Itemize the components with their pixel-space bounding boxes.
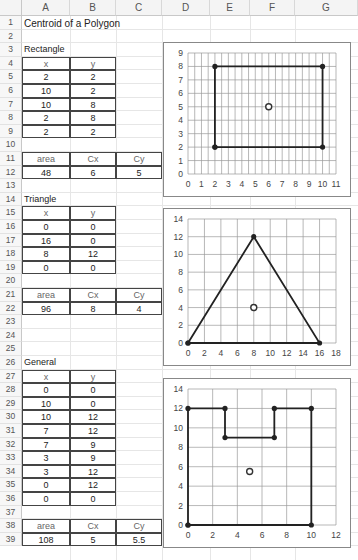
row-header-14[interactable]: 14	[0, 193, 22, 207]
rectangle-section-label[interactable]: Rectangle	[22, 43, 70, 57]
row-header-6[interactable]: 6	[0, 84, 22, 98]
column-header-a[interactable]: A	[22, 0, 70, 16]
rectangle-cy-header[interactable]: Cy	[116, 152, 162, 166]
general-section-label[interactable]: General	[22, 356, 70, 370]
general-y-value[interactable]: 12	[70, 410, 116, 424]
column-header-e[interactable]: E	[210, 0, 250, 16]
row-header-21[interactable]: 21	[0, 288, 22, 302]
row-header-10[interactable]: 10	[0, 138, 22, 152]
row-header-19[interactable]: 19	[0, 261, 22, 275]
rectangle-header-y[interactable]: y	[70, 57, 116, 71]
row-header-30[interactable]: 30	[0, 410, 22, 424]
general-x-value[interactable]: 0	[22, 383, 70, 397]
triangle-cy-header[interactable]: Cy	[116, 288, 162, 302]
row-header-17[interactable]: 17	[0, 234, 22, 248]
triangle-header-y[interactable]: y	[70, 206, 116, 220]
rectangle-area-value[interactable]: 48	[22, 166, 70, 180]
row-header-39[interactable]: 39	[0, 533, 22, 547]
row-header-1[interactable]: 1	[0, 16, 22, 30]
rectangle-y-value[interactable]: 2	[70, 125, 116, 139]
triangle-area-header[interactable]: area	[22, 288, 70, 302]
rectangle-y-value[interactable]: 2	[70, 84, 116, 98]
row-header-24[interactable]: 24	[0, 329, 22, 343]
general-y-value[interactable]: 9	[70, 451, 116, 465]
row-header-33[interactable]: 33	[0, 451, 22, 465]
sheet-title[interactable]: Centroid of a Polygon	[24, 17, 120, 31]
general-cx-value[interactable]: 5	[70, 533, 116, 547]
general-x-value[interactable]: 3	[22, 465, 70, 479]
rectangle-x-value[interactable]: 10	[22, 84, 70, 98]
triangle-cx-header[interactable]: Cx	[70, 288, 116, 302]
general-x-value[interactable]: 10	[22, 410, 70, 424]
row-header-4[interactable]: 4	[0, 57, 22, 71]
row-header-26[interactable]: 26	[0, 356, 22, 370]
triangle-y-value[interactable]: 0	[70, 220, 116, 234]
rectangle-x-value[interactable]: 2	[22, 111, 70, 125]
rectangle-area-header[interactable]: area	[22, 152, 70, 166]
row-header-34[interactable]: 34	[0, 465, 22, 479]
row-header-9[interactable]: 9	[0, 125, 22, 139]
general-y-value[interactable]: 12	[70, 465, 116, 479]
triangle-cy-value[interactable]: 4	[116, 302, 162, 316]
row-header-13[interactable]: 13	[0, 179, 22, 193]
triangle-y-value[interactable]: 0	[70, 234, 116, 248]
row-header-29[interactable]: 29	[0, 397, 22, 411]
column-header-b[interactable]: B	[70, 0, 116, 16]
select-all-corner[interactable]	[0, 0, 22, 16]
row-header-8[interactable]: 8	[0, 111, 22, 125]
row-header-23[interactable]: 23	[0, 315, 22, 329]
column-header-d[interactable]: D	[162, 0, 210, 16]
row-header-3[interactable]: 3	[0, 43, 22, 57]
triangle-y-value[interactable]: 0	[70, 261, 116, 275]
general-area-value[interactable]: 108	[22, 533, 70, 547]
triangle-area-value[interactable]: 96	[22, 302, 70, 316]
general-x-value[interactable]: 0	[22, 478, 70, 492]
column-header-f[interactable]: F	[250, 0, 295, 16]
rectangle-cx-header[interactable]: Cx	[70, 152, 116, 166]
rectangle-cy-value[interactable]: 5	[116, 166, 162, 180]
general-area-header[interactable]: area	[22, 519, 70, 533]
general-cy-value[interactable]: 5.5	[116, 533, 162, 547]
rectangle-y-value[interactable]: 2	[70, 70, 116, 84]
triangle-cx-value[interactable]: 8	[70, 302, 116, 316]
row-header-12[interactable]: 12	[0, 166, 22, 180]
row-header-18[interactable]: 18	[0, 247, 22, 261]
rectangle-y-value[interactable]: 8	[70, 111, 116, 125]
triangle-y-value[interactable]: 12	[70, 247, 116, 261]
triangle-x-value[interactable]: 0	[22, 220, 70, 234]
row-header-22[interactable]: 22	[0, 302, 22, 316]
general-y-value[interactable]: 0	[70, 397, 116, 411]
general-header-x[interactable]: x	[22, 370, 70, 384]
row-header-20[interactable]: 20	[0, 274, 22, 288]
chart-general[interactable]: 02468101202468101214	[163, 378, 351, 548]
rectangle-cx-value[interactable]: 6	[70, 166, 116, 180]
rectangle-x-value[interactable]: 10	[22, 98, 70, 112]
row-header-5[interactable]: 5	[0, 70, 22, 84]
triangle-x-value[interactable]: 8	[22, 247, 70, 261]
general-x-value[interactable]: 7	[22, 424, 70, 438]
rectangle-x-value[interactable]: 2	[22, 70, 70, 84]
triangle-header-x[interactable]: x	[22, 206, 70, 220]
row-header-35[interactable]: 35	[0, 478, 22, 492]
row-header-15[interactable]: 15	[0, 206, 22, 220]
triangle-x-value[interactable]: 0	[22, 261, 70, 275]
triangle-section-label[interactable]: Triangle	[22, 193, 70, 207]
general-cy-header[interactable]: Cy	[116, 519, 162, 533]
row-header-28[interactable]: 28	[0, 383, 22, 397]
row-header-32[interactable]: 32	[0, 438, 22, 452]
general-cx-header[interactable]: Cx	[70, 519, 116, 533]
row-header-2[interactable]: 2	[0, 30, 22, 44]
chart-triangle[interactable]: 02468101214161802468101214	[163, 208, 351, 366]
row-header-31[interactable]: 31	[0, 424, 22, 438]
rectangle-x-value[interactable]: 2	[22, 125, 70, 139]
row-header-7[interactable]: 7	[0, 98, 22, 112]
general-y-value[interactable]: 12	[70, 478, 116, 492]
general-y-value[interactable]: 9	[70, 438, 116, 452]
row-header-27[interactable]: 27	[0, 370, 22, 384]
general-x-value[interactable]: 0	[22, 492, 70, 506]
general-header-y[interactable]: y	[70, 370, 116, 384]
row-header-25[interactable]: 25	[0, 342, 22, 356]
row-header-16[interactable]: 16	[0, 220, 22, 234]
triangle-x-value[interactable]: 16	[22, 234, 70, 248]
chart-rectangle[interactable]: 012345678910110123456789	[163, 42, 351, 197]
